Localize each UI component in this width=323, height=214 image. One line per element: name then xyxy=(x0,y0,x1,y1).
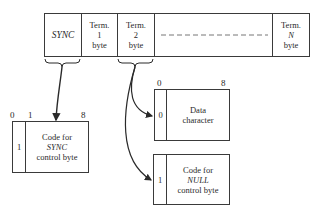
null-code-line3: control byte xyxy=(178,185,219,195)
data-cell: Data character xyxy=(166,89,230,141)
null-code-line2: NULL xyxy=(178,175,219,185)
termN-line3: byte xyxy=(281,40,301,50)
null-code-line1: Code for xyxy=(178,165,219,175)
termN-line1: Term. xyxy=(281,20,301,30)
bit-label-8: 8 xyxy=(81,111,86,120)
term1-cell: Term. 1 byte xyxy=(81,13,118,57)
termN-cell: Term. N byte xyxy=(272,13,310,57)
data-flag-value: 0 xyxy=(158,110,162,120)
bit-label-8: 8 xyxy=(221,79,226,88)
sync-code-line1: Code for xyxy=(37,132,78,142)
sync-brace xyxy=(45,59,80,67)
data-line1: Data xyxy=(182,105,213,115)
term2-brace xyxy=(118,59,153,67)
sync-flag-value: 1 xyxy=(17,142,21,152)
term2-line1: Term. xyxy=(126,20,146,30)
term1-line1: Term. xyxy=(90,20,110,30)
data-arrow xyxy=(131,67,152,116)
term1-line2: 1 xyxy=(90,30,110,40)
term1-line3: byte xyxy=(90,40,110,50)
null-arrow xyxy=(125,67,151,180)
null-code-cell: Code for NULL control byte xyxy=(166,154,230,205)
null-flag-bit: 1 xyxy=(153,154,167,205)
sync-arrow xyxy=(56,67,62,120)
term2-cell: Term. 2 byte xyxy=(117,13,155,57)
term2-line3: byte xyxy=(126,40,146,50)
sync-cell: SYNC xyxy=(44,13,82,57)
sync-code-line3: control byte xyxy=(37,152,78,162)
sync-cell-label: SYNC xyxy=(52,30,75,40)
term2-line2: 2 xyxy=(126,30,146,40)
termN-line2: N xyxy=(281,30,301,40)
bit-label-0: 0 xyxy=(157,79,162,88)
bit-label-0: 0 xyxy=(10,111,15,120)
gap-cell xyxy=(154,13,273,57)
data-line2: character xyxy=(182,115,213,125)
sync-code-cell: Code for SYNC control byte xyxy=(25,121,89,173)
bit-label-1: 1 xyxy=(28,111,33,120)
null-flag-value: 1 xyxy=(158,175,162,185)
sync-code-line2: SYNC xyxy=(37,142,78,152)
sync-flag-bit: 1 xyxy=(12,121,26,173)
